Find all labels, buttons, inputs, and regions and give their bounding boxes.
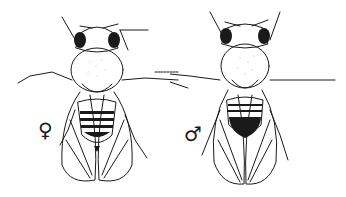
male-symbol-icon: ♂ bbox=[184, 124, 202, 144]
right-eye-icon bbox=[258, 28, 270, 44]
male-fly-drawing bbox=[170, 0, 346, 197]
female-fly: ♀ bbox=[0, 0, 180, 197]
right-eye-icon bbox=[108, 32, 120, 48]
female-fly-drawing bbox=[0, 0, 180, 197]
male-fly: ♂ bbox=[170, 0, 346, 197]
female-symbol-icon: ♀ bbox=[38, 120, 53, 140]
drosophila-illustration: ♀ bbox=[0, 0, 346, 197]
left-eye-icon bbox=[74, 32, 86, 48]
left-eye-icon bbox=[220, 28, 232, 44]
